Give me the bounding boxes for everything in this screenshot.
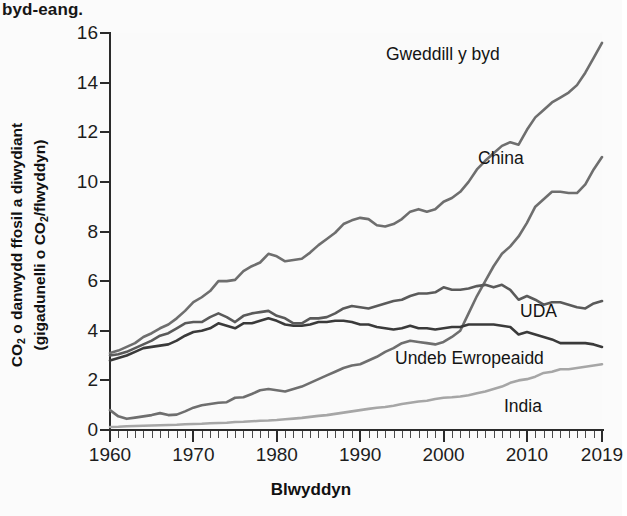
series-label-china: China	[478, 148, 524, 168]
series-label-eu: Undeb Ewropeaidd	[395, 348, 544, 368]
series-label-usa: UDA	[520, 301, 557, 321]
series-label-rest-of-world: Gweddill y byd	[386, 44, 500, 64]
series-label-india: India	[504, 396, 542, 416]
